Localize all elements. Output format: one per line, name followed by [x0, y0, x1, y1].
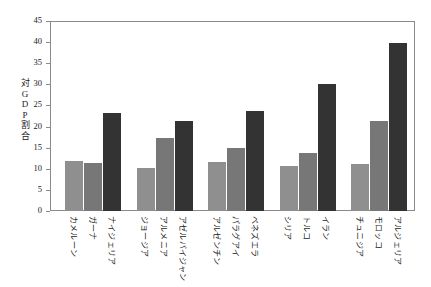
bar — [370, 121, 388, 211]
bar — [65, 161, 83, 211]
bars-layer — [51, 21, 415, 211]
x-axis-label: ジョージア — [140, 216, 149, 286]
y-axis-tick-label: 5 — [38, 184, 42, 195]
x-axis-label: アルメニア — [159, 216, 168, 286]
bar — [84, 163, 102, 211]
bar — [299, 153, 317, 211]
bar — [227, 148, 245, 211]
bar — [156, 138, 174, 211]
y-axis-tick-label: 30 — [34, 78, 43, 89]
x-axis-label: ベネズエラ — [250, 216, 259, 286]
y-axis-tick-label: 25 — [34, 99, 43, 110]
y-axis-tick-label: 35 — [34, 57, 43, 68]
x-axis-label: モロッコ — [374, 216, 383, 286]
x-axis-label: パラグアイ — [231, 216, 240, 286]
bar — [389, 43, 407, 211]
y-axis-tick-label: 45 — [34, 15, 43, 26]
x-axis-label: シリア — [283, 216, 292, 286]
bar — [280, 166, 298, 211]
x-axis-label: ガーナ — [88, 216, 97, 286]
bar — [103, 113, 121, 211]
y-axis-tick-label: 15 — [34, 142, 43, 153]
y-axis-tick-label: 0 — [38, 205, 42, 216]
x-axis-label: アルジェリア — [393, 216, 402, 286]
y-axis-title: 対 G D P 割 合 — [18, 78, 32, 141]
x-axis-label: チュニジア — [355, 216, 364, 286]
bar-chart: 対 G D P 割 合 051015202530354045 カメルーンガーナナ… — [0, 0, 431, 287]
bar — [318, 84, 336, 211]
bar — [175, 121, 193, 211]
x-axis-label: アゼルバイジャン — [178, 216, 187, 286]
y-axis-tick-label: 20 — [34, 121, 43, 132]
bar — [351, 164, 369, 211]
bar — [208, 162, 226, 211]
x-axis-label: カメルーン — [69, 216, 78, 286]
x-axis-label: トルコ — [302, 216, 311, 286]
x-axis-label: アルゼンチン — [212, 216, 221, 286]
x-axis-label: ナイジェリア — [107, 216, 116, 286]
bar — [246, 111, 264, 211]
x-axis-label: イラン — [321, 216, 330, 286]
y-axis-tick-label: 10 — [34, 163, 43, 174]
y-axis-tick-label: 40 — [34, 36, 43, 47]
y-axis-tick-mark — [46, 211, 50, 212]
bar — [137, 168, 155, 211]
